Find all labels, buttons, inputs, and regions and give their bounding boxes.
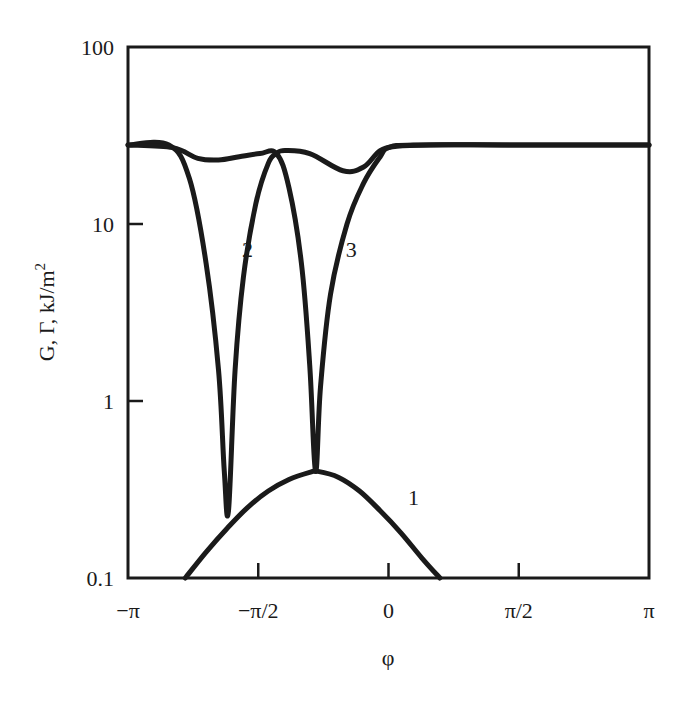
x-axis-ticks: −π−π/20π/2π	[116, 563, 654, 623]
plot-area	[128, 142, 649, 578]
y-tick-label: 1	[103, 389, 114, 414]
y-axis-title-main: G, Γ, kJ/m	[34, 270, 59, 361]
curve-2	[128, 142, 649, 516]
y-tick-label: 10	[92, 212, 114, 237]
x-tick-label: π/2	[505, 598, 533, 623]
axes-frame	[128, 47, 649, 578]
y-axis-title-superscript: 2	[32, 263, 48, 271]
y-axis-title: G, Γ, kJ/m2	[32, 263, 59, 361]
x-tick-label: −π/2	[238, 598, 279, 623]
x-tick-label: 0	[383, 598, 394, 623]
curve-3	[128, 145, 649, 472]
x-axis-title: φ	[382, 645, 395, 670]
y-tick-label: 0.1	[87, 566, 115, 591]
curve-label-2: 2	[242, 237, 253, 262]
x-tick-label: −π	[116, 598, 140, 623]
curve-label-3: 3	[346, 237, 357, 262]
x-tick-label: π	[643, 598, 654, 623]
y-tick-label: 100	[81, 35, 114, 60]
chart-figure: −π−π/20π/2π 1001010.1 123 φ G, Γ, kJ/m2	[0, 0, 687, 702]
curve-labels: 123	[242, 237, 419, 509]
curve-label-1: 1	[408, 485, 419, 510]
y-axis-ticks: 1001010.1	[81, 35, 143, 591]
